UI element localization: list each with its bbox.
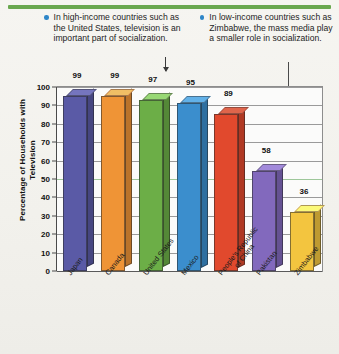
bar-japan[interactable]: [63, 96, 87, 271]
callout-low-income: In low-income countries such as Zimbabwe…: [200, 12, 336, 70]
y-tick-label-80: 80: [41, 119, 57, 128]
leader-arrow-to-united-states: [165, 57, 166, 71]
bar-series: 99999795895836: [57, 87, 322, 271]
y-tick-label-100: 100: [37, 83, 57, 92]
y-tick-label-0: 0: [46, 267, 57, 276]
bar-body: [101, 96, 125, 271]
bar-front-face: [101, 96, 125, 271]
y-tick-label-90: 90: [41, 101, 57, 110]
bar-value-label-mexico: 95: [186, 78, 195, 87]
bar-value-label-zimbabwe: 36: [300, 187, 309, 196]
y-tick-label-10: 10: [41, 248, 57, 257]
bar-body: [63, 96, 87, 271]
chart-page: In high-income countries such as the Uni…: [0, 0, 339, 354]
bar-side-face: [314, 205, 321, 268]
bar-value-label-united-states: 97: [148, 75, 157, 84]
y-tick-label-70: 70: [41, 138, 57, 147]
y-tick-label-40: 40: [41, 193, 57, 202]
bar-body: [177, 103, 201, 271]
bar-front-face: [139, 100, 163, 271]
bar-mexico[interactable]: [177, 103, 201, 271]
bar-side-face: [87, 89, 94, 268]
bullet-icon: [44, 15, 49, 20]
bar-canada[interactable]: [101, 96, 125, 271]
callout-low-income-text: In low-income countries such as Zimbabwe…: [209, 12, 336, 44]
bar-front-face: [63, 96, 87, 271]
bar-united-states[interactable]: [139, 100, 163, 271]
top-green-rule: [8, 5, 331, 9]
y-tick-label-30: 30: [41, 211, 57, 220]
plot-area: 0102030405060708090100 99999795895836: [57, 86, 323, 272]
bar-value-label-pakistan: 58: [262, 146, 271, 155]
callout-high-income: In high-income countries such as the Uni…: [44, 12, 190, 70]
bar-value-label-canada: 99: [110, 71, 119, 80]
y-axis-title: Percentage of Households with Television: [18, 85, 38, 235]
bar-side-face: [201, 96, 208, 267]
bar-front-face: [177, 103, 201, 271]
bar-side-face: [276, 164, 283, 267]
y-tick-label-20: 20: [41, 230, 57, 239]
bar-body: [139, 100, 163, 271]
bullet-icon: [200, 15, 205, 20]
bar-value-label-people-s-republic-of-china: 89: [224, 89, 233, 98]
bar-side-face: [125, 89, 132, 268]
bar-value-label-japan: 99: [72, 71, 81, 80]
y-tick-label-60: 60: [41, 156, 57, 165]
callout-group: In high-income countries such as the Uni…: [44, 12, 336, 70]
x-axis-labels: JapanCanadaUnited StatesMexicoPeople's R…: [57, 272, 322, 352]
y-tick-label-50: 50: [41, 175, 57, 184]
callout-high-income-text: In high-income countries such as the Uni…: [54, 12, 190, 44]
